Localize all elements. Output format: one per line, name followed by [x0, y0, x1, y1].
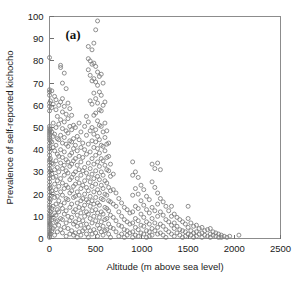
x-tick-label: 0	[47, 243, 52, 254]
y-tick-label: 70	[33, 78, 44, 89]
x-tick-label: 1500	[178, 243, 199, 254]
y-axis-title: Prevalence of self-reported kichocho	[4, 50, 15, 204]
y-tick-label: 50	[33, 122, 44, 133]
x-axis-title: Altitude (m above sea level)	[106, 261, 223, 272]
y-tick-label: 30	[33, 166, 44, 177]
plot-background	[50, 17, 281, 239]
x-tick-label: 2500	[270, 243, 291, 254]
y-tick-label: 10	[33, 211, 44, 222]
scatter-plot-figure: 0102030405060708090100050010001500200025…	[0, 0, 303, 299]
panel-label: (a)	[66, 27, 81, 42]
y-tick-label: 80	[33, 55, 44, 66]
y-tick-label: 0	[38, 233, 43, 244]
x-tick-label: 1000	[131, 243, 152, 254]
x-tick-label: 2000	[224, 243, 245, 254]
y-tick-label: 100	[28, 11, 44, 22]
x-tick-label: 500	[88, 243, 104, 254]
y-tick-label: 90	[33, 33, 44, 44]
y-tick-label: 60	[33, 100, 44, 111]
y-tick-label: 40	[33, 144, 44, 155]
y-tick-label: 20	[33, 189, 44, 200]
